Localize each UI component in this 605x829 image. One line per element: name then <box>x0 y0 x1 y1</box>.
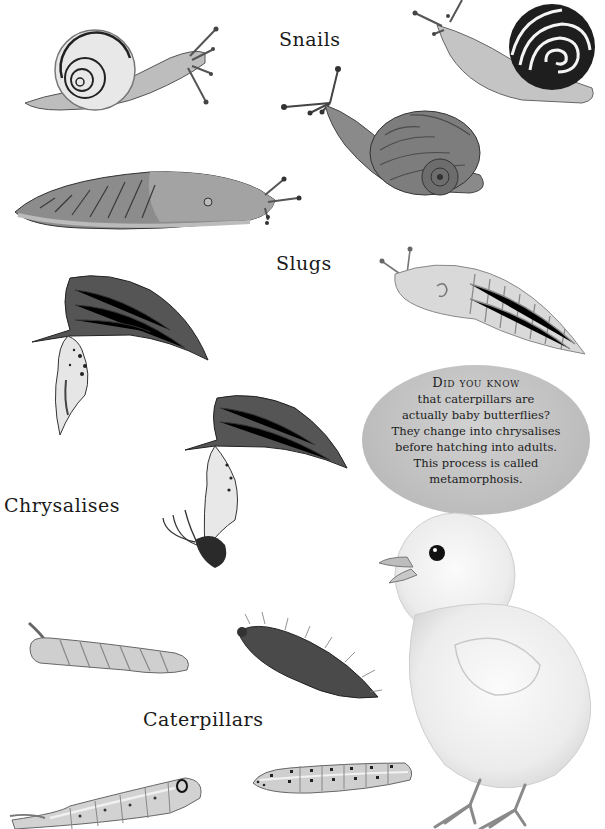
bubble-line: This process is called <box>362 455 590 471</box>
bubble-line: before hatching into adults. <box>362 439 590 455</box>
bubble-line: that caterpillars are <box>362 391 590 407</box>
bubble-line: metamorphosis. <box>362 471 590 487</box>
bubble-title: Did you know <box>362 375 590 391</box>
garden-snail-illustration <box>280 65 495 200</box>
label-slugs: Slugs <box>276 252 332 274</box>
label-chrysalises: Chrysalises <box>4 494 120 516</box>
baby-chick-illustration <box>375 505 605 829</box>
horned-caterpillar-illustration <box>25 608 195 678</box>
white-lipped-snail-illustration <box>20 18 220 118</box>
bubble-line: actually baby butterflies? <box>362 407 590 423</box>
did-you-know-bubble: Did you know that caterpillars are actua… <box>362 365 590 515</box>
hairy-caterpillar-illustration <box>230 612 382 707</box>
hatching-chrysalis-on-leaf-illustration <box>155 390 350 575</box>
leopard-slug-illustration <box>10 160 300 235</box>
bubble-line: They change into chrysalises <box>362 423 590 439</box>
label-snails: Snails <box>279 28 340 50</box>
hawkmoth-caterpillar-illustration <box>10 768 205 829</box>
pale-slug-illustration <box>375 244 595 359</box>
label-caterpillars: Caterpillars <box>143 708 263 730</box>
